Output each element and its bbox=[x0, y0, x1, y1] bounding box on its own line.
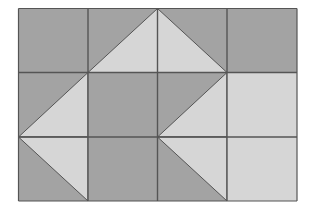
tile-grid bbox=[0, 0, 312, 212]
grid-cell bbox=[19, 9, 89, 73]
grid-cell bbox=[88, 137, 158, 201]
grid-cell bbox=[227, 73, 297, 138]
grid-cell bbox=[88, 73, 158, 138]
grid-cell bbox=[227, 9, 297, 73]
grid-cell bbox=[227, 137, 297, 201]
